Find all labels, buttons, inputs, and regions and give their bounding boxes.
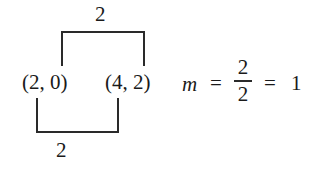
point-label-2-0: (2, 0) <box>22 72 68 93</box>
bottom-bracket-left-leg <box>36 98 38 133</box>
slope-result: 1 <box>291 73 302 94</box>
slope-variable: m <box>182 74 197 95</box>
fraction-numerator: 2 <box>238 57 249 78</box>
top-bracket-left-leg <box>61 31 63 66</box>
bottom-bracket-right-leg <box>117 98 119 133</box>
point-label-4-2: (4, 2) <box>105 72 151 93</box>
slope-fraction: 2 2 <box>234 57 252 105</box>
bottom-bracket-label: 2 <box>56 140 67 161</box>
equals-sign-1: = <box>210 73 222 94</box>
fraction-denominator: 2 <box>238 84 249 105</box>
bottom-bracket-horizontal <box>36 131 119 133</box>
top-bracket-right-leg <box>143 31 145 66</box>
top-bracket-horizontal <box>61 31 145 33</box>
equals-sign-2: = <box>264 73 276 94</box>
top-bracket-label: 2 <box>95 4 106 25</box>
